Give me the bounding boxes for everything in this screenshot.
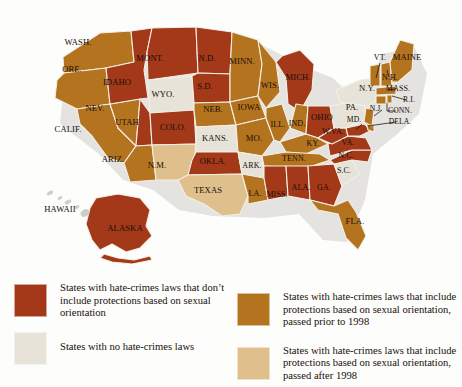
state-label-mo: MO.: [246, 133, 262, 143]
state-label-hawaii: HAWAII: [44, 204, 75, 214]
state-label-ill: ILL.: [271, 120, 286, 129]
state-label-calif: CALIF.: [55, 124, 82, 134]
state-label-conn: CONN.: [388, 106, 412, 115]
us-map: WASH.ORE.IDAHOMONT.N.D.S.D.MINN.WIS.MICH…: [0, 0, 462, 272]
state-label-ky: KY.: [307, 139, 320, 148]
state-label-la: LA.: [249, 189, 262, 198]
state-mn[interactable]: [230, 32, 262, 102]
state-label-ariz: ARIZ.: [102, 154, 125, 164]
state-label-utah: UTAH: [115, 117, 139, 127]
state-label-nev: NEV.: [85, 103, 104, 113]
state-label-idaho: IDAHO: [103, 77, 131, 87]
state-label-ga: GA.: [317, 183, 331, 192]
state-label-texas: TEXAS: [194, 185, 222, 195]
state-label-alaska: ALASKA: [107, 223, 143, 233]
state-label-kans: KANS.: [202, 133, 228, 143]
state-label-md: MD.: [347, 115, 361, 124]
state-label-vt: VT.: [374, 53, 386, 62]
state-label-wash: WASH.: [65, 37, 92, 47]
state-label-miss: MISS.: [266, 190, 287, 199]
state-label-mont: MONT.: [136, 53, 163, 63]
legend-swatch-prior-1998: [237, 293, 270, 326]
legend-swatch-no-sexual-orientation: [14, 284, 47, 317]
legend-label-prior-1998: States with hate-crimes laws that includ…: [283, 291, 457, 329]
legend-item-prior-1998: States with hate-crimes laws that includ…: [237, 291, 457, 329]
state-label-ny: N.Y.: [359, 83, 375, 93]
legend-item-no-sexual-orientation: States with hate-crimes laws that don’t …: [14, 282, 229, 320]
state-label-nm: N.M.: [148, 160, 167, 170]
state-label-fla: FLA.: [346, 216, 365, 226]
hate-crimes-laws-map-figure: WASH.ORE.IDAHOMONT.N.D.S.D.MINN.WIS.MICH…: [0, 0, 462, 387]
legend-label-no-hate-crimes-laws: States with no hate-crimes laws: [60, 341, 194, 354]
state-label-sd: S.D.: [197, 81, 213, 91]
state-label-pa: PA.: [346, 102, 359, 112]
state-label-ind: IND.: [289, 119, 306, 128]
state-label-wva: W.VA.: [322, 127, 344, 136]
state-label-mich: MICH.: [285, 72, 310, 82]
state-label-ala: ALA.: [292, 183, 311, 192]
state-label-ore: ORE.: [62, 64, 82, 74]
state-label-sc: S.C.: [337, 166, 351, 175]
state-label-tenn: TENN.: [282, 154, 306, 163]
state-ak-aleutians[interactable]: [100, 254, 152, 264]
state-label-nd: N.D.: [198, 53, 215, 63]
state-label-wyo: WYO.: [151, 89, 174, 99]
state-label-dela: DELA.: [389, 117, 412, 126]
state-label-ohio: OHIO: [311, 112, 333, 122]
legend-item-no-hate-crimes-laws: States with no hate-crimes laws: [14, 330, 229, 365]
legend-column-left: States with hate-crimes laws that don’t …: [14, 272, 229, 365]
state-label-ri: R.I.: [403, 95, 415, 104]
state-label-nj: N.J.: [370, 104, 383, 113]
state-label-maine: MAINE: [393, 52, 422, 62]
map-legend: States with hate-crimes laws that don’t …: [0, 272, 462, 387]
state-ct[interactable]: [376, 96, 386, 104]
state-label-mass: MASS.: [386, 84, 410, 93]
legend-label-no-sexual-orientation: States with hate-crimes laws that don’t …: [60, 282, 229, 320]
state-label-nc: N.C.: [338, 151, 354, 160]
legend-column-right: States with hate-crimes laws that includ…: [237, 272, 457, 383]
state-label-va: VA.: [342, 138, 355, 147]
state-label-okla: OKLA.: [200, 156, 227, 166]
state-label-iowa: IOWA: [238, 102, 262, 112]
state-nd[interactable]: [196, 27, 232, 74]
state-label-colo: COLO.: [160, 122, 186, 132]
state-label-ark: ARK.: [242, 161, 261, 170]
map-svg: WASH.ORE.IDAHOMONT.N.D.S.D.MINN.WIS.MICH…: [0, 0, 462, 272]
state-label-wis: WIS.: [261, 80, 279, 90]
state-label-minn: MINN.: [229, 56, 255, 66]
state-ri[interactable]: [387, 95, 392, 103]
legend-swatch-no-hate-crimes-laws: [14, 332, 47, 365]
legend-label-after-1998: States with hate-crimes laws that includ…: [283, 345, 457, 383]
legend-swatch-after-1998: [237, 347, 270, 380]
legend-item-after-1998: States with hate-crimes laws that includ…: [237, 345, 457, 383]
state-label-nh: N.H.: [382, 73, 398, 82]
state-label-neb: NEB.: [203, 104, 223, 114]
